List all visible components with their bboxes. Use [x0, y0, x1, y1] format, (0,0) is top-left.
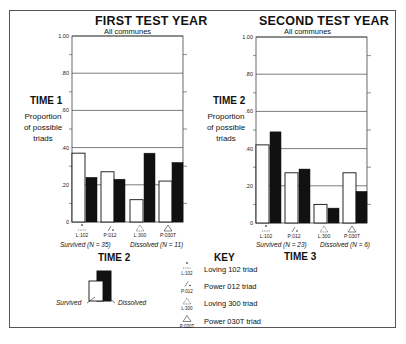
triad-L:102-icon: [78, 224, 86, 230]
y-tick-label: .80: [61, 70, 69, 76]
triad-P:012-icon: [185, 282, 191, 287]
bar-survived: [343, 173, 356, 223]
y-tick-label: .20: [61, 182, 69, 188]
chart-graphics: 0.20.40.60.801.00L:102P:012L:300P:030T0.…: [0, 0, 406, 344]
y-tick-label: .40: [61, 145, 69, 151]
triad-L:102-icon: [183, 262, 191, 268]
bar-dissolved: [86, 177, 97, 222]
bar-dissolved: [144, 153, 155, 222]
y-tick-label: .60: [245, 108, 253, 114]
category-label: P:030T: [160, 232, 176, 238]
triad-L:102-icon: [262, 225, 270, 231]
key-abbr: P:030T: [180, 324, 195, 329]
triad-L:300-icon: [183, 298, 191, 304]
bar-survived: [285, 173, 298, 223]
bar-dissolved: [114, 179, 125, 222]
triad-P:030T-icon: [164, 225, 172, 231]
category-label: P:030T: [344, 233, 360, 239]
y-tick-label: 1.00: [58, 33, 69, 39]
y-tick-label: .80: [245, 71, 253, 77]
y-tick-label: 0: [250, 220, 253, 226]
bar-dissolved: [172, 162, 183, 222]
triad-L:300-icon: [320, 226, 328, 232]
triad-L:300-icon: [136, 225, 144, 231]
bar-survived: [130, 200, 143, 222]
triad-P:030T-icon: [183, 316, 191, 322]
category-label: P:012: [103, 232, 116, 238]
key-abbr: P:012: [181, 289, 193, 294]
y-tick-label: 1.00: [242, 34, 253, 40]
bar-dissolved: [270, 132, 281, 223]
key-abbr: L:300: [181, 306, 193, 311]
triad-P:012-icon: [108, 226, 114, 231]
category-label: P:012: [287, 233, 300, 239]
chart-2: [253, 37, 371, 223]
bar-survived: [159, 181, 172, 222]
y-tick-label: .40: [245, 146, 253, 152]
chart-1: [69, 36, 187, 222]
bar-survived: [256, 145, 269, 223]
category-label: L:102: [260, 233, 273, 239]
key-abbr: L:102: [181, 271, 193, 276]
y-tick-label: .60: [61, 107, 69, 113]
triad-P:030T-icon: [348, 226, 356, 232]
y-tick-label: 0: [66, 219, 69, 225]
bar-survived: [101, 172, 114, 222]
bar-survived: [314, 204, 327, 223]
bar-dissolved: [328, 208, 339, 223]
category-label: L:300: [134, 232, 147, 238]
category-label: L:102: [76, 232, 89, 238]
triad-P:012-icon: [292, 227, 298, 232]
bar-dissolved: [299, 169, 310, 223]
legend-sample: [87, 271, 115, 303]
bar-survived: [72, 153, 85, 222]
bar-dissolved: [356, 191, 367, 223]
y-tick-label: .20: [245, 183, 253, 189]
category-label: L:300: [318, 233, 331, 239]
